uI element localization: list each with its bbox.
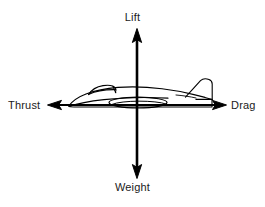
four-forces-of-flight-diagram: Lift Weight Thrust Drag xyxy=(0,0,265,207)
airplane-silhouette xyxy=(69,79,213,108)
thrust-label: Thrust xyxy=(8,99,40,111)
wing-root-shading xyxy=(112,101,166,104)
force-arrows-group xyxy=(48,29,227,179)
drag-label: Drag xyxy=(231,99,256,111)
aft-fuselage-taper xyxy=(176,95,196,98)
weight-label: Weight xyxy=(0,181,265,193)
weight-arrow xyxy=(132,104,141,179)
lift-label: Lift xyxy=(0,11,265,23)
lift-arrow xyxy=(132,29,141,107)
